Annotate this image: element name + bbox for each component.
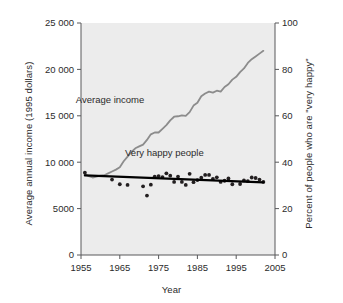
scatter-point bbox=[192, 180, 196, 184]
scatter-point bbox=[172, 180, 176, 184]
x-axis-tick-label: 1965 bbox=[109, 262, 130, 273]
y-axis-left-tick-label: 5000 bbox=[53, 203, 74, 214]
scatter-point bbox=[145, 194, 149, 198]
scatter-point bbox=[118, 182, 122, 186]
chart-figure: Average incomeVery happy people 0500010 … bbox=[0, 0, 343, 303]
scatter-point bbox=[180, 180, 184, 184]
y-axis-right-title: Percent of people who are "very happy" bbox=[303, 54, 314, 234]
scatter-point bbox=[83, 171, 87, 175]
scatter-point bbox=[188, 172, 192, 176]
scatter-point bbox=[258, 178, 262, 182]
y-axis-left-tick-label: 0 bbox=[69, 249, 74, 260]
y-axis-right-tick-label: 0 bbox=[282, 249, 287, 260]
series-annotation-label: Very happy people bbox=[125, 147, 204, 158]
y-axis-right-tick-label: 80 bbox=[282, 64, 293, 75]
x-axis-tick-label: 1975 bbox=[148, 262, 169, 273]
scatter-point bbox=[230, 182, 234, 186]
x-axis-title: Year bbox=[0, 284, 343, 295]
scatter-point bbox=[126, 183, 130, 187]
x-axis-tick-label: 2005 bbox=[264, 262, 285, 273]
x-axis-tick-label: 1985 bbox=[187, 262, 208, 273]
plot-background bbox=[81, 23, 275, 255]
y-axis-right-tick-label: 40 bbox=[282, 157, 293, 168]
y-axis-right-tick-label: 60 bbox=[282, 110, 293, 121]
scatter-point bbox=[250, 176, 254, 180]
scatter-point bbox=[168, 174, 172, 178]
y-axis-right-tick-label: 100 bbox=[282, 17, 298, 28]
scatter-point bbox=[110, 178, 114, 182]
scatter-point bbox=[141, 184, 145, 188]
y-axis-left-tick-label: 10 000 bbox=[45, 157, 74, 168]
x-axis-tick-label: 1955 bbox=[70, 262, 91, 273]
scatter-point bbox=[184, 183, 188, 187]
scatter-point bbox=[207, 173, 211, 177]
scatter-point bbox=[227, 177, 231, 181]
y-axis-left-tick-label: 25 000 bbox=[45, 17, 74, 28]
x-axis-tick-label: 1995 bbox=[226, 262, 247, 273]
y-axis-left-tick-label: 15 000 bbox=[45, 110, 74, 121]
scatter-point bbox=[149, 183, 153, 187]
scatter-point bbox=[254, 176, 258, 180]
income-vs-happiness-chart: Average incomeVery happy people 0500010 … bbox=[0, 0, 343, 303]
scatter-point bbox=[203, 173, 207, 177]
y-axis-right-tick-label: 20 bbox=[282, 203, 293, 214]
scatter-point bbox=[215, 175, 219, 179]
y-axis-left-tick-label: 20 000 bbox=[45, 64, 74, 75]
scatter-point bbox=[164, 171, 168, 175]
series-annotation-label: Average income bbox=[76, 94, 144, 105]
y-axis-left-title: Average annual income (1995 dollars) bbox=[23, 54, 34, 234]
scatter-point bbox=[238, 182, 242, 186]
